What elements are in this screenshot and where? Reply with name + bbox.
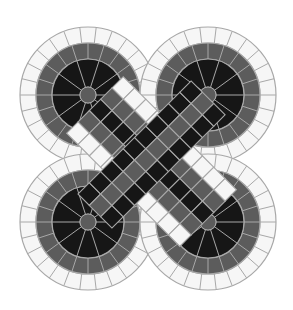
- lobe-hub: [80, 214, 96, 230]
- lobe-hub: [80, 87, 96, 103]
- mosaic-image: [0, 0, 293, 310]
- celtic-knot-mosaic: [0, 0, 293, 310]
